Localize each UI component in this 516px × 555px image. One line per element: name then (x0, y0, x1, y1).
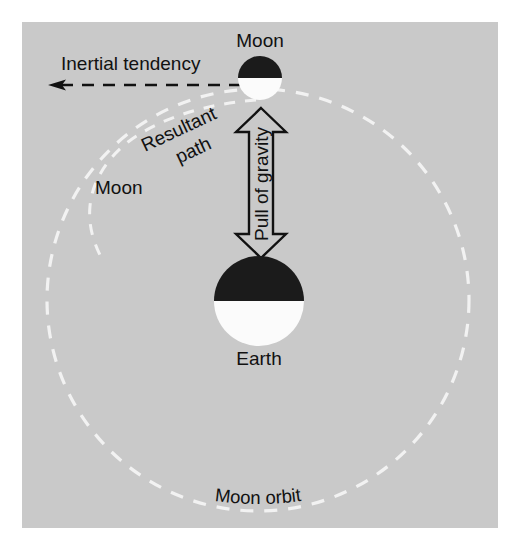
orbit-diagram-svg: Moon Inertial tendency Moon Earth Result… (0, 0, 516, 555)
label-inertial-tendency: Inertial tendency (61, 53, 201, 74)
label-pull-of-gravity: Pull of gravity (251, 126, 272, 241)
label-moon-orbit: Moon orbit (214, 484, 302, 508)
label-moon-top: Moon (236, 30, 284, 51)
earth-body (214, 256, 304, 346)
label-earth: Earth (236, 348, 281, 369)
diagram-root: Moon Inertial tendency Moon Earth Result… (0, 0, 516, 555)
moon-body (238, 56, 282, 100)
label-moon-left: Moon (95, 177, 143, 198)
